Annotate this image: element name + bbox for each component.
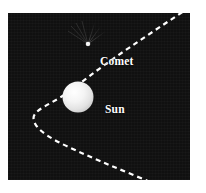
- comet-nucleus: [86, 42, 91, 47]
- space-background-panel: Comet Sun: [8, 13, 190, 180]
- sun-body: [63, 82, 94, 113]
- comet-label: Comet: [100, 55, 134, 67]
- comet-orbit-path: [34, 13, 190, 180]
- sun-label: Sun: [105, 103, 125, 115]
- orbit-diagram-svg: [8, 13, 190, 180]
- comet-tail: [68, 20, 106, 44]
- figure-root: Comet Sun: [0, 0, 206, 193]
